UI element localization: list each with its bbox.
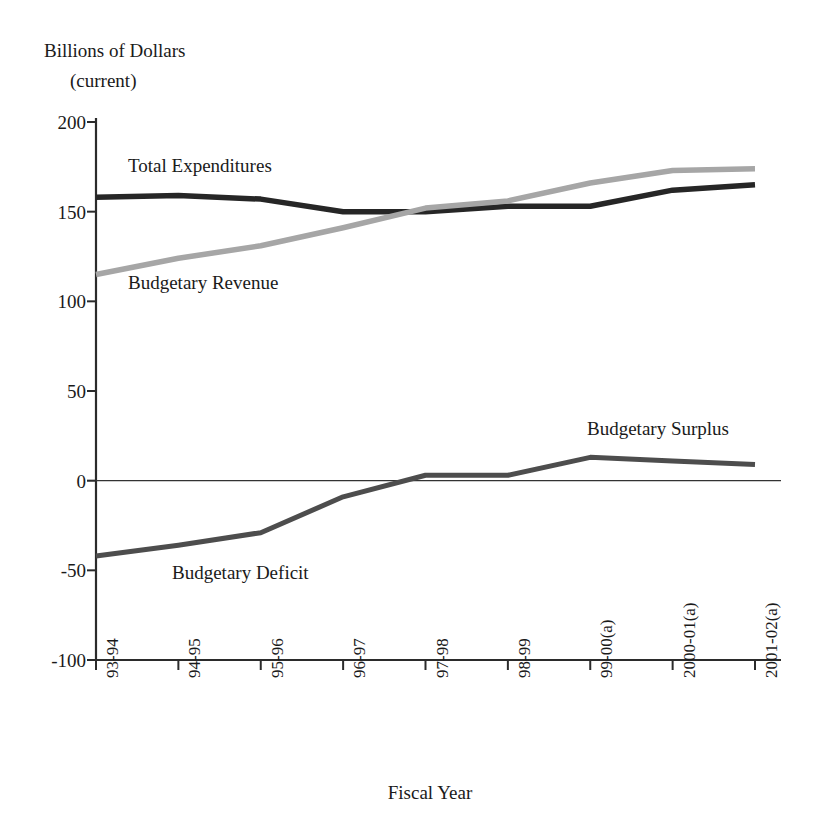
y-tick-label: 50 bbox=[26, 381, 86, 403]
series-label-total-expenditures: Total Expenditures bbox=[128, 155, 272, 177]
plot-area: 200150100500-50-100 93-9494-9595-9696-97… bbox=[0, 0, 815, 825]
series-label-budgetary-surplus: Budgetary Surplus bbox=[587, 418, 729, 440]
series-line-budgetary-balance bbox=[96, 457, 755, 556]
y-tick-label: 0 bbox=[26, 471, 86, 493]
x-tick-label: 99-00(a) bbox=[597, 619, 617, 678]
x-tick-label: 95-96 bbox=[268, 638, 288, 678]
y-tick-label: 200 bbox=[26, 112, 86, 134]
chart-figure: Billions of Dollars (current) 2001501005… bbox=[0, 0, 815, 825]
x-tick-label: 2000-01(a) bbox=[680, 602, 700, 678]
chart-canvas bbox=[0, 0, 815, 825]
y-tick-label: 100 bbox=[26, 291, 86, 313]
x-tick-label: 98-99 bbox=[515, 638, 535, 678]
x-tick-label: 93-94 bbox=[103, 638, 123, 678]
y-tick-label: -50 bbox=[26, 560, 86, 582]
series-label-budgetary-deficit: Budgetary Deficit bbox=[172, 562, 309, 584]
y-tick-label: -100 bbox=[26, 650, 86, 672]
series-line-budgetary-revenue bbox=[96, 169, 755, 275]
series-label-budgetary-revenue: Budgetary Revenue bbox=[128, 272, 278, 294]
x-tick-label: 2001-02(a) bbox=[762, 602, 782, 678]
x-tick-label: 97-98 bbox=[433, 638, 453, 678]
x-axis-title: Fiscal Year bbox=[0, 782, 815, 804]
x-tick-label: 96-97 bbox=[350, 638, 370, 678]
x-tick-label: 94-95 bbox=[185, 638, 205, 678]
y-tick-label: 150 bbox=[26, 202, 86, 224]
